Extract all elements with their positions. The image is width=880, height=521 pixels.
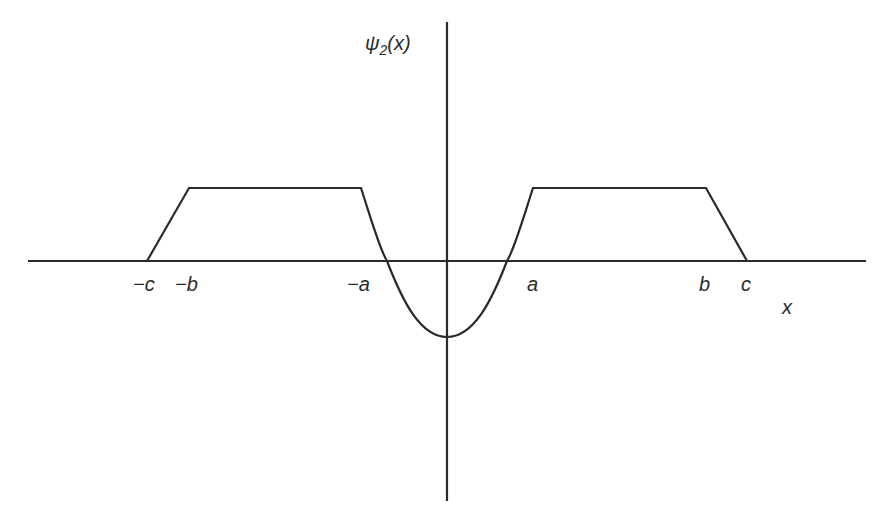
tick-label-b: b: [699, 273, 710, 295]
tick-label-neg-c: −c: [133, 273, 155, 295]
tick-label-neg-a: −a: [347, 273, 370, 295]
x-axis-label: x: [781, 296, 793, 318]
y-axis-label: ψ2(x): [365, 32, 411, 58]
tick-label-neg-b: −b: [175, 273, 198, 295]
tick-label-a: a: [527, 273, 538, 295]
tick-label-c: c: [741, 273, 751, 295]
wavefunction-diagram: ψ2(x) −c −b −a a b c x: [0, 0, 880, 521]
